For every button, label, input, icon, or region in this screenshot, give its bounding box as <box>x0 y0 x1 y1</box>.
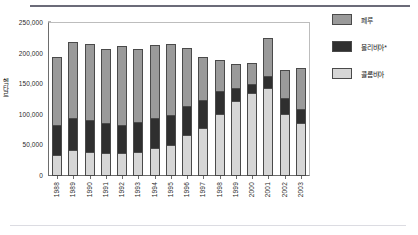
bar-segment <box>247 84 257 93</box>
bar-segment <box>215 114 225 176</box>
stacked-bar[interactable] <box>280 70 290 176</box>
stacked-bar[interactable] <box>166 44 176 176</box>
x-tick-label: 2001 <box>264 182 271 197</box>
bar-segment <box>52 155 62 176</box>
x-tick-label: 1992 <box>118 182 125 197</box>
bar-segment <box>133 49 143 122</box>
bar-slot <box>98 23 114 176</box>
x-tick-mark <box>171 176 172 179</box>
x-tick-mark <box>187 176 188 179</box>
bar-segment <box>247 93 257 176</box>
bar-slot <box>65 23 81 176</box>
x-tick-mark <box>73 176 74 179</box>
bar-slot <box>82 23 98 176</box>
x-tick-label: 1988 <box>53 182 60 197</box>
bar-segment <box>263 88 273 176</box>
bar-segment <box>182 48 192 106</box>
bar-segment <box>263 76 273 88</box>
stacked-bar[interactable] <box>52 57 62 176</box>
bar-slot <box>49 23 65 176</box>
bar-slot <box>195 23 211 176</box>
bar-segment <box>117 125 127 153</box>
bar-segment <box>198 128 208 176</box>
stacked-bar[interactable] <box>150 45 160 176</box>
stacked-bar[interactable] <box>101 49 111 176</box>
bar-segment <box>231 101 241 176</box>
bar-segment <box>101 123 111 152</box>
bar-slot <box>130 23 146 176</box>
bar-segment <box>182 135 192 176</box>
x-tick-label: 2002 <box>281 182 288 197</box>
x-tick-label: 1990 <box>86 182 93 197</box>
stacked-bar[interactable] <box>85 44 95 176</box>
bar-segment <box>280 70 290 99</box>
y-tick-label: 250,000 <box>19 19 43 26</box>
bar-slot <box>260 23 276 176</box>
stacked-bar[interactable] <box>68 42 78 176</box>
bar-segment <box>68 150 78 176</box>
x-tick-mark <box>155 176 156 179</box>
legend-swatch <box>332 68 352 79</box>
bar-series-container <box>49 23 309 176</box>
chart-figure: 헥타르 050,000100,000150,000200,000250,000 … <box>0 0 418 235</box>
bar-slot <box>114 23 130 176</box>
bar-segment <box>85 44 95 120</box>
bar-segment <box>296 68 306 109</box>
y-tick-label: 0 <box>39 172 43 179</box>
legend-item[interactable]: 페루 <box>332 14 416 25</box>
bar-segment <box>198 57 208 99</box>
bar-segment <box>133 122 143 151</box>
stacked-bar[interactable] <box>296 68 306 176</box>
stacked-bar[interactable] <box>182 48 192 177</box>
x-tick-mark <box>106 176 107 179</box>
bar-slot <box>277 23 293 176</box>
x-tick-label: 1999 <box>232 182 239 197</box>
y-tick-label: 50,000 <box>23 141 43 148</box>
x-tick-mark <box>301 176 302 179</box>
bar-slot <box>228 23 244 176</box>
bar-slot <box>293 23 309 176</box>
y-tick-label: 150,000 <box>19 80 43 87</box>
x-tick-label: 1989 <box>69 182 76 197</box>
bar-segment <box>68 42 78 118</box>
legend-item[interactable]: 볼리비아* <box>332 41 416 52</box>
legend-item[interactable]: 콜롬비아 <box>332 68 416 79</box>
x-tick-mark <box>203 176 204 179</box>
x-tick-mark <box>268 176 269 179</box>
bar-segment <box>68 118 78 150</box>
stacked-bar[interactable] <box>247 63 257 176</box>
stacked-bar[interactable] <box>231 64 241 176</box>
y-axis-tick-labels: 050,000100,000150,000200,000250,000 <box>0 22 48 176</box>
bar-segment <box>247 63 257 84</box>
bar-slot <box>244 23 260 176</box>
bar-segment <box>231 64 241 88</box>
bar-segment <box>215 60 225 91</box>
bar-segment <box>85 152 95 176</box>
x-tick-mark <box>252 176 253 179</box>
x-tick-label: 1991 <box>102 182 109 197</box>
y-tick-label: 100,000 <box>19 110 43 117</box>
x-tick-mark <box>90 176 91 179</box>
stacked-bar[interactable] <box>133 49 143 176</box>
bar-segment <box>280 114 290 176</box>
bar-segment <box>280 98 290 113</box>
stacked-bar[interactable] <box>198 57 208 176</box>
x-tick-mark <box>57 176 58 179</box>
y-tick-label: 200,000 <box>19 49 43 56</box>
bar-segment <box>52 57 62 125</box>
legend-swatch <box>332 41 352 52</box>
bar-segment <box>117 153 127 176</box>
stacked-bar[interactable] <box>263 38 273 176</box>
legend-label: 콜롬비아 <box>361 69 384 79</box>
bar-segment <box>150 45 160 118</box>
stacked-bar[interactable] <box>215 60 225 176</box>
bar-segment <box>263 38 273 76</box>
bar-segment <box>85 120 95 151</box>
bar-segment <box>117 46 127 126</box>
stacked-bar[interactable] <box>117 46 127 176</box>
x-tick-label: 1998 <box>216 182 223 197</box>
top-divider-rule <box>30 5 410 7</box>
bar-segment <box>198 100 208 128</box>
bar-segment <box>101 49 111 123</box>
bar-segment <box>215 91 225 114</box>
